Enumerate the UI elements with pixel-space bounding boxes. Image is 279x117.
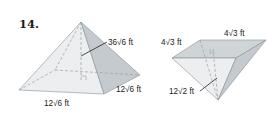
top-back-edge-label: 4√3 ft <box>224 29 245 38</box>
square-pyramid: 36√6 ft 12√6 ft 12√6 ft <box>19 22 142 108</box>
slant-height-label: 12√2 ft <box>169 87 195 96</box>
top-left-edge-label: 4√3 ft <box>161 38 182 47</box>
base-front-label: 12√6 ft <box>44 99 70 108</box>
slant-height-label: 36√6 ft <box>108 38 134 47</box>
geometry-figures: 36√6 ft 12√6 ft 12√6 ft 4√3 ft 4√3 ft 12… <box>0 0 279 117</box>
base-side-label: 12√6 ft <box>116 85 142 94</box>
inverted-pyramid: 4√3 ft 4√3 ft 12√2 ft <box>161 29 266 100</box>
